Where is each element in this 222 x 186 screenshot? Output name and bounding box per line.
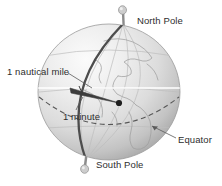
label-equator: Equator bbox=[178, 135, 212, 145]
globe-center-dot bbox=[116, 100, 122, 106]
label-north-pole: North Pole bbox=[137, 16, 183, 26]
label-nautical-mile: 1 nautical mile bbox=[7, 67, 69, 77]
globe-sphere bbox=[38, 24, 180, 160]
label-south-pole: South Pole bbox=[96, 160, 143, 170]
label-one-minute: 1 minute bbox=[63, 112, 100, 122]
